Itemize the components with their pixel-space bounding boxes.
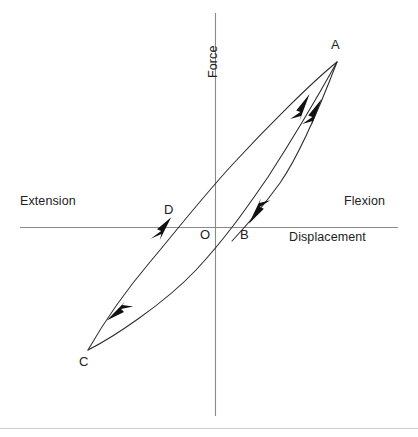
y-axis-label: Force (207, 46, 220, 78)
hysteresis-figure: A B C D O Force Displacement Extension F… (0, 0, 418, 437)
footer-divider (0, 428, 418, 429)
x-axis-negative-label: Extension (20, 195, 76, 208)
point-label-origin: O (200, 228, 210, 241)
point-label-a: A (331, 38, 340, 51)
arrow-unloading-lower-icon (107, 301, 134, 322)
point-label-d: D (164, 203, 174, 216)
point-label-b: B (240, 228, 249, 241)
x-axis-label: Displacement (289, 231, 366, 244)
arrow-loading-upper-icon (288, 94, 313, 122)
arrow-loading-near-d-icon (149, 217, 172, 240)
x-axis-positive-label: Flexion (344, 195, 385, 208)
point-label-c: C (79, 355, 89, 368)
